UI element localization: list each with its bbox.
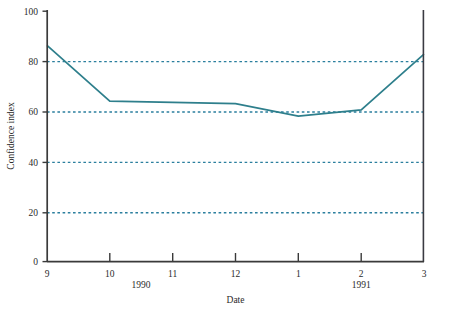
x-axis-tick-labels: 9 10 11 12 1 2 3 [45,269,427,279]
x-tick-label-2: 2 [359,269,364,279]
y-tick-label-40: 40 [29,158,39,168]
y-tick-label-60: 60 [29,107,39,117]
x-tick-label-10: 10 [105,269,115,279]
x-tick-label-11: 11 [168,269,177,279]
chart-container: 100 80 60 40 20 0 9 10 11 12 1 2 3 1990 … [0,0,449,315]
x-tick-label-3: 3 [422,269,427,279]
y-axis-tick-labels: 100 80 60 40 20 0 [24,7,39,267]
y-tick-label-20: 20 [29,208,39,218]
x-axis-title: Date [227,295,245,305]
line-chart: 100 80 60 40 20 0 9 10 11 12 1 2 3 1990 … [0,0,449,315]
x-tick-label-12: 12 [231,269,241,279]
y-tick-label-80: 80 [29,57,39,67]
x-tick-label-9: 9 [45,269,50,279]
y-axis-title: Confidence index [6,102,16,170]
plot-background [47,10,424,262]
y-axis-ticks [43,11,48,261]
y-tick-label-0: 0 [33,257,38,267]
x-tick-label-1: 1 [296,269,301,279]
x-axis-year-label-1991: 1991 [352,280,371,290]
x-axis-year-label-1990: 1990 [132,280,151,290]
y-tick-label-100: 100 [24,7,39,17]
